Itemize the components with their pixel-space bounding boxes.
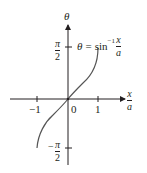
x-tick-label-0: 0 [71,104,77,115]
y-tick-label-minus-pi-over-2: π 2 [55,140,60,163]
fraction-denominator: a [127,102,132,112]
tick-numerator: π [55,140,60,150]
x-tick-label-1: 1 [95,104,101,115]
tick-denominator: 2 [55,153,60,163]
tick-numerator: π [55,39,60,49]
equation-superscript: −1 [107,37,114,45]
equation-label: θ = sin −1 x a [77,36,121,56]
x-tick-label-minus-1: −1 [29,104,41,115]
fraction-numerator: x [116,35,120,45]
x-axis-label: x a [127,89,132,112]
equation-equals: = [85,40,91,52]
equation-theta: θ [77,40,82,52]
y-tick-label-minus-sign: − [48,142,54,152]
origin-point [67,98,70,101]
y-tick-label-pi-over-2: π 2 [55,39,60,62]
tick-denominator: 2 [55,52,60,62]
fraction-denominator: a [116,48,121,58]
equation-sin: sin [95,40,108,52]
plot-canvas [0,0,147,173]
equation-fraction: x a [116,35,121,58]
fraction-numerator: x [127,89,131,99]
y-axis-label: θ [64,11,69,22]
